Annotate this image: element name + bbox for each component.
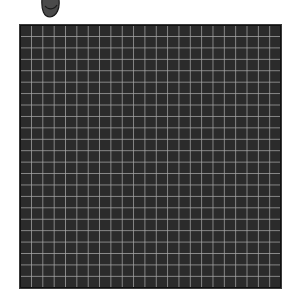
canvas bbox=[0, 0, 295, 303]
grid-board[interactable] bbox=[20, 25, 281, 288]
pebble-icon bbox=[40, 0, 61, 18]
